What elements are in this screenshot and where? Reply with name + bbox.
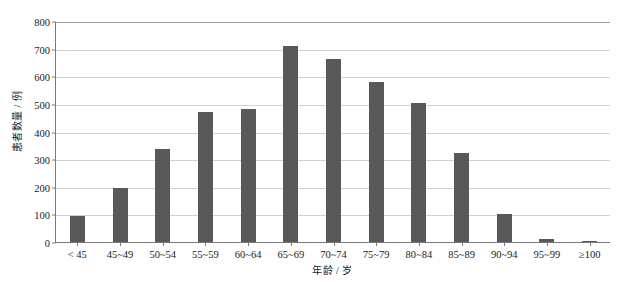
bar-slot — [141, 22, 184, 242]
x-axis-tick-mark — [291, 242, 292, 246]
bar-slot — [440, 22, 483, 242]
x-axis-tick-label: 90~94 — [491, 249, 518, 260]
bar-slot — [184, 22, 227, 242]
x-axis-tick-mark — [205, 242, 206, 246]
bar[interactable] — [113, 188, 128, 242]
y-axis-tick-label: 600 — [34, 72, 50, 83]
x-axis-tick-label: < 45 — [68, 249, 87, 260]
x-axis-tick-mark — [462, 242, 463, 246]
x-axis-tick-label: 55~59 — [192, 249, 219, 260]
y-axis-title-text: 患者数量 / 例 — [10, 91, 25, 153]
bar[interactable] — [497, 214, 512, 242]
bar[interactable] — [411, 103, 426, 243]
x-axis-tick-mark — [504, 242, 505, 246]
x-axis-tick-mark — [248, 242, 249, 246]
bar[interactable] — [283, 46, 298, 242]
y-axis-title: 患者数量 / 例 — [8, 0, 26, 243]
bar-slot — [312, 22, 355, 242]
y-axis-tick-label: 0 — [45, 238, 50, 249]
y-axis-tick-label: 800 — [34, 17, 50, 28]
bar-slot — [568, 22, 611, 242]
bar[interactable] — [241, 109, 256, 242]
bar-slot — [398, 22, 441, 242]
bar-slot — [269, 22, 312, 242]
bar-slot — [56, 22, 99, 242]
bar-slot — [99, 22, 142, 242]
x-axis-tick-mark — [590, 242, 591, 246]
x-axis-tick-mark — [334, 242, 335, 246]
x-axis-tick-label: 65~69 — [277, 249, 304, 260]
y-axis-tick-label: 700 — [34, 44, 50, 55]
bar[interactable] — [70, 216, 85, 242]
y-axis-tick-label: 200 — [34, 182, 50, 193]
x-axis-tick-mark — [419, 242, 420, 246]
x-axis-tick-label: 85~89 — [448, 249, 475, 260]
bar[interactable] — [326, 59, 341, 242]
x-axis-tick-label: 70~74 — [320, 249, 347, 260]
x-axis-tick-label: 60~64 — [235, 249, 262, 260]
x-axis-tick-label: 50~54 — [149, 249, 176, 260]
y-axis-tick-label: 400 — [34, 127, 50, 138]
bar[interactable] — [454, 153, 469, 242]
x-axis-tick-mark — [547, 242, 548, 246]
x-axis-tick-label: ≥100 — [579, 249, 601, 260]
bar[interactable] — [198, 112, 213, 242]
x-axis-title: 年龄 / 岁 — [55, 262, 610, 277]
bars-layer — [56, 22, 610, 242]
y-axis-tick-label: 300 — [34, 155, 50, 166]
bar-slot — [526, 22, 569, 242]
x-axis-tick-label: 80~84 — [406, 249, 433, 260]
x-axis-tick-mark — [163, 242, 164, 246]
bar-slot — [355, 22, 398, 242]
y-axis-tick-label: 500 — [34, 99, 50, 110]
bar[interactable] — [369, 82, 384, 242]
x-axis-title-text: 年龄 / 岁 — [312, 265, 353, 276]
y-axis-tick-label: 100 — [34, 210, 50, 221]
bar-slot — [483, 22, 526, 242]
x-axis-tick-label: 45~49 — [107, 249, 134, 260]
x-axis-tick-mark — [77, 242, 78, 246]
bar-chart-figure: 患者数量 / 例 0100200300400500600700800 < 454… — [0, 0, 621, 282]
bar[interactable] — [155, 149, 170, 242]
bar-slot — [227, 22, 270, 242]
x-axis-tick-mark — [120, 242, 121, 246]
x-axis-tick-mark — [376, 242, 377, 246]
y-axis-tick-mark — [52, 243, 56, 244]
plot-area: 0100200300400500600700800 < 4545~4950~54… — [55, 22, 610, 243]
x-axis-tick-label: 75~79 — [363, 249, 390, 260]
x-axis-tick-label: 95~99 — [534, 249, 561, 260]
